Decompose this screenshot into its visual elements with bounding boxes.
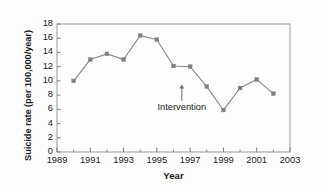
x-axis-tick-label: 1995: [147, 155, 168, 165]
x-axis-tick-label: 1999: [213, 155, 234, 165]
x-axis-tick-label: 1993: [113, 155, 134, 165]
x-axis-tick-label: 1991: [80, 155, 101, 165]
annotation-label-intervention: Intervention: [158, 102, 207, 112]
data-point-marker: [205, 85, 209, 89]
x-axis-tick-label: 1989: [47, 155, 68, 165]
data-point-marker: [271, 92, 275, 96]
data-point-marker: [188, 65, 192, 69]
data-point-marker: [255, 78, 259, 82]
data-point-marker: [138, 33, 142, 37]
data-point-marker: [238, 86, 242, 90]
data-point-marker: [222, 108, 226, 112]
data-point-marker: [105, 52, 109, 56]
data-point-marker: [72, 79, 76, 83]
data-point-marker: [172, 64, 176, 68]
chart-figure: Suicide rate (per 100,000/year) 02468101…: [0, 0, 322, 191]
plot-frame: [57, 24, 290, 152]
annotation-arrow-head: [179, 85, 184, 89]
x-axis-tick-label: 2003: [280, 155, 301, 165]
data-point-marker: [122, 58, 126, 62]
x-axis-tick-label: 2001: [246, 155, 267, 165]
data-point-marker: [155, 38, 159, 42]
data-line: [74, 35, 274, 110]
x-axis-tick-label: 1997: [180, 155, 201, 165]
data-point-marker: [88, 58, 92, 62]
